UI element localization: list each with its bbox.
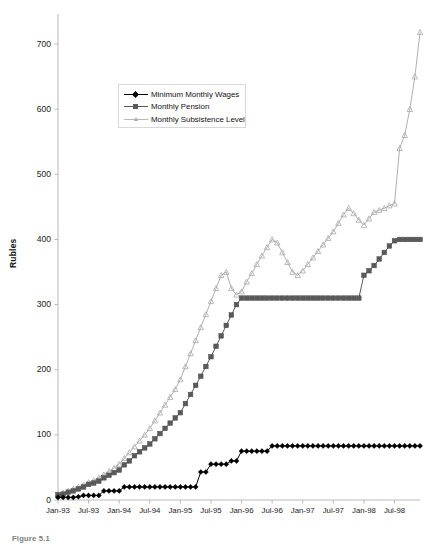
y-tick-label: 100 [19, 429, 51, 439]
figure-caption: Figure 5.1 [12, 534, 50, 543]
x-tick-label: Jul-98 [373, 506, 417, 515]
legend-key-minimum-monthly-wages [123, 89, 149, 100]
y-tick-label: 700 [19, 39, 51, 49]
legend-key-monthly-pension [123, 101, 149, 112]
y-tick-label: 300 [19, 299, 51, 309]
y-tick-label: 200 [19, 364, 51, 374]
legend-label-monthly-pension: Monthly Pension [149, 102, 209, 111]
y-axis-label: Rubles [8, 238, 18, 268]
figure-container: Rubles 0100200300400500600700 Jan-93Jul-… [0, 0, 428, 549]
legend-item: Monthly Subsistence Level [123, 113, 242, 126]
y-tick-label: 400 [19, 234, 51, 244]
chart-legend: Minimum Monthly Wages Monthly Pension Mo… [118, 84, 246, 128]
legend-key-monthly-subsistence-level [123, 114, 149, 125]
legend-label-minimum-monthly-wages: Minimum Monthly Wages [149, 90, 239, 99]
legend-item: Minimum Monthly Wages [123, 88, 242, 101]
chart-canvas [0, 0, 428, 549]
legend-label-monthly-subsistence-level: Monthly Subsistence Level [149, 115, 245, 124]
legend-item: Monthly Pension [123, 101, 242, 114]
y-tick-label: 500 [19, 169, 51, 179]
y-tick-label: 0 [19, 495, 51, 505]
y-tick-label: 600 [19, 104, 51, 114]
